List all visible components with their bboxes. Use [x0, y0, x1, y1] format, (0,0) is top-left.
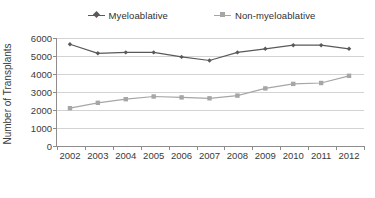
data-point-marker — [124, 50, 128, 54]
legend-label-non-myeloablative: Non-myeloablative — [235, 10, 315, 21]
data-point-marker — [235, 50, 239, 54]
data-point-marker — [319, 43, 323, 47]
x-axis-tick-label: 2009 — [250, 150, 280, 161]
data-point-marker — [68, 106, 72, 110]
x-axis-tick — [364, 146, 365, 150]
series-line — [70, 44, 349, 60]
diamond-marker-icon — [88, 11, 105, 20]
data-point-marker — [347, 74, 351, 78]
data-point-marker — [207, 58, 211, 62]
data-point-marker — [263, 47, 267, 51]
legend-item-myeloablative[interactable]: Myeloablative — [88, 10, 168, 21]
square-marker-icon — [214, 11, 231, 20]
data-point-marker — [235, 93, 239, 97]
x-axis-tick-label: 2011 — [306, 150, 336, 161]
data-point-marker — [263, 86, 267, 90]
data-point-marker — [96, 51, 100, 55]
series-layer — [56, 38, 363, 146]
y-axis-tick-label: 4000 — [18, 69, 52, 80]
series-2 — [68, 74, 351, 111]
x-axis-tick-label: 2006 — [167, 150, 197, 161]
data-point-marker — [319, 81, 323, 85]
y-axis-tick-label: 5000 — [18, 51, 52, 62]
data-point-marker — [151, 50, 155, 54]
y-axis-tick-label: 6000 — [18, 33, 52, 44]
data-point-marker — [291, 43, 295, 47]
y-axis-tick-label: 2000 — [18, 105, 52, 116]
series-1 — [68, 42, 351, 63]
data-point-marker — [68, 42, 72, 46]
x-axis-tick-label: 2008 — [222, 150, 252, 161]
data-point-marker — [347, 47, 351, 51]
x-axis-tick-label: 2003 — [83, 150, 113, 161]
y-axis-title: Number of Transplants — [0, 36, 16, 152]
data-point-marker — [207, 96, 211, 100]
series-line — [70, 76, 349, 108]
chart-legend: Myeloablative Non-myeloablative — [0, 4, 375, 26]
transplants-line-chart: Myeloablative Non-myeloablative Number o… — [0, 0, 375, 198]
x-axis-tick-label: 2005 — [139, 150, 169, 161]
y-axis-tick-labels: 0100020003000400050006000 — [16, 38, 52, 146]
data-point-marker — [179, 55, 183, 59]
data-point-marker — [124, 97, 128, 101]
legend-diamond-glyph — [93, 11, 100, 18]
x-axis-tick-label: 2010 — [278, 150, 308, 161]
legend-item-non-myeloablative[interactable]: Non-myeloablative — [214, 10, 315, 21]
data-point-marker — [96, 101, 100, 105]
legend-square-glyph — [220, 12, 225, 17]
data-point-marker — [179, 95, 183, 99]
y-axis-tick-label: 0 — [18, 141, 52, 152]
legend-label-myeloablative: Myeloablative — [109, 10, 168, 21]
data-point-marker — [151, 94, 155, 98]
x-axis-tick-label: 2002 — [55, 150, 85, 161]
data-point-marker — [291, 82, 295, 86]
x-axis-tick-label: 2007 — [195, 150, 225, 161]
x-axis-tick-label: 2004 — [111, 150, 141, 161]
y-axis-tick-label: 1000 — [18, 123, 52, 134]
y-axis-tick-label: 3000 — [18, 87, 52, 98]
x-axis-tick-labels: 2002200320042005200620072008200920102011… — [56, 150, 363, 166]
x-axis-tick-label: 2012 — [334, 150, 364, 161]
